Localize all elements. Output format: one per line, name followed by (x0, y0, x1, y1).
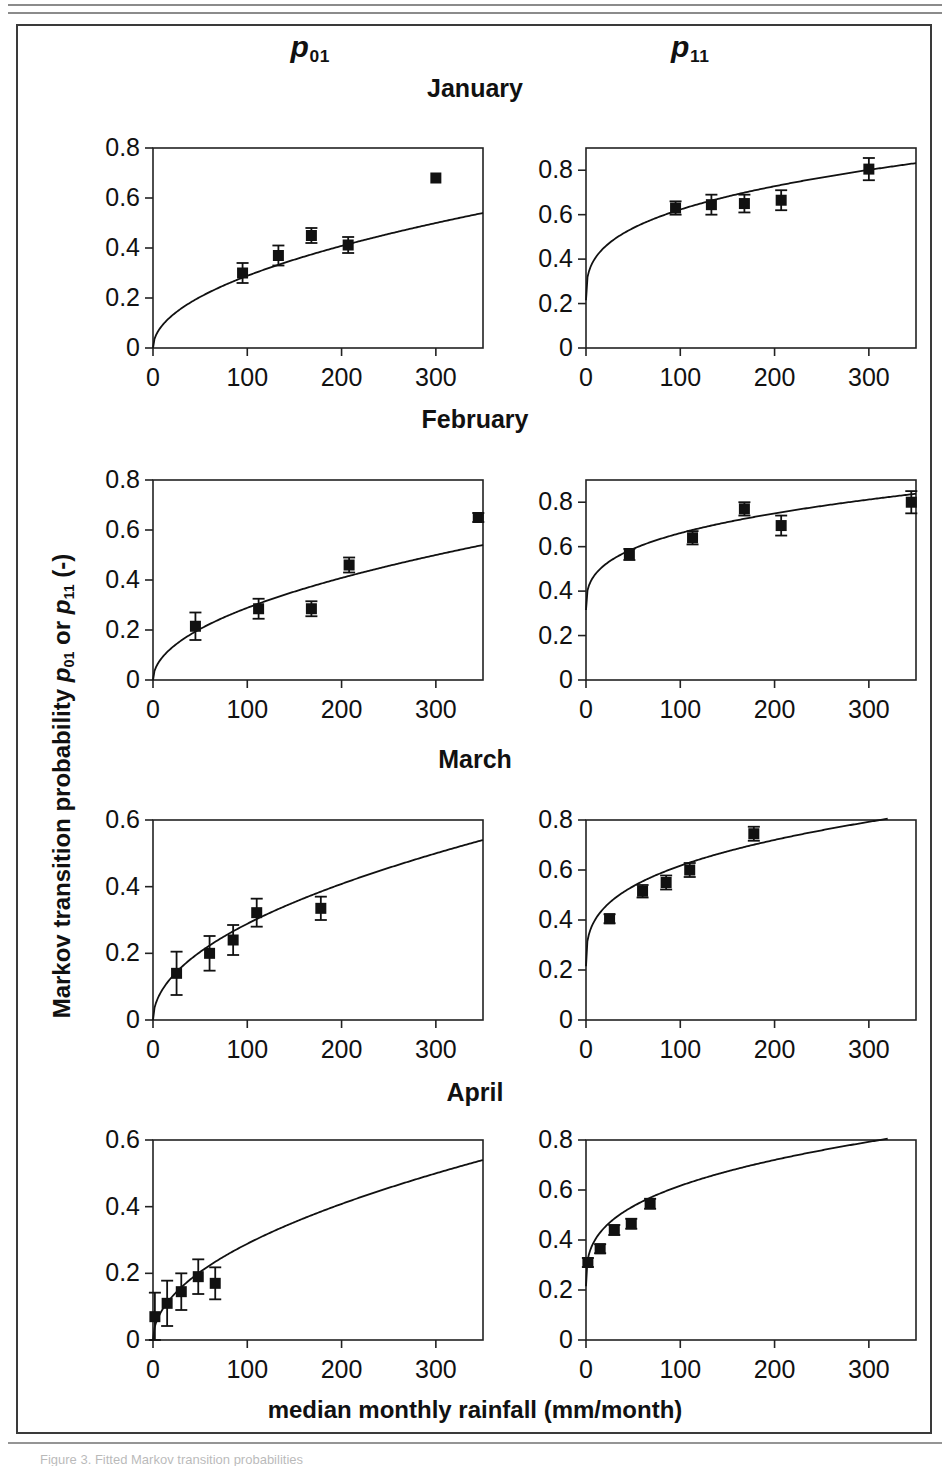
x-tick-label: 0 (579, 1355, 593, 1383)
data-point-marker (237, 268, 248, 279)
data-point-marker (776, 195, 787, 206)
plot-panel-january-p01: 00.20.40.60.80100200300 (95, 128, 497, 410)
x-tick-label: 200 (754, 695, 796, 723)
y-axis-title: Markov transition probability p01 or p11… (48, 406, 76, 1166)
column-header-p11: p11 (560, 30, 820, 64)
data-point-marker (661, 877, 672, 888)
x-tick-label: 100 (226, 363, 268, 391)
y-tick-label: 0.6 (105, 805, 140, 833)
y-tick-label: 0.6 (538, 855, 573, 883)
y-tick-label: 0.8 (538, 1125, 573, 1153)
data-point-marker (624, 549, 635, 560)
y-tick-label: 0.2 (105, 283, 140, 311)
x-tick-label: 0 (579, 1035, 593, 1063)
month-title-april: April (0, 1078, 950, 1107)
y-tick-label: 0.4 (105, 872, 140, 900)
plot-frame (153, 1140, 483, 1340)
data-point-marker (253, 603, 264, 614)
y-tick-label: 0 (559, 665, 573, 693)
fit-curve (153, 545, 483, 680)
data-point-marker (637, 886, 648, 897)
y-tick-label: 0.8 (538, 805, 573, 833)
y-tick-label: 0 (126, 1325, 140, 1353)
data-point-marker (595, 1243, 606, 1254)
x-tick-label: 300 (848, 1355, 890, 1383)
plot-panel-april-p11: 00.20.40.60.80100200300 (528, 1120, 930, 1402)
data-point-marker (906, 497, 917, 508)
x-tick-label: 0 (146, 363, 160, 391)
data-point-marker (645, 1198, 656, 1209)
x-tick-label: 100 (226, 1035, 268, 1063)
data-point-marker (739, 503, 750, 514)
y-axis-title-symbol-1: p (48, 668, 75, 683)
data-point-marker (306, 230, 317, 241)
scan-rule-top-upper (8, 4, 942, 6)
y-tick-label: 0.6 (538, 1175, 573, 1203)
month-title-january: January (0, 74, 950, 103)
y-axis-title-prefix: Markov transition probability (48, 682, 75, 1018)
fit-curve (153, 840, 483, 1020)
y-tick-label: 0.4 (538, 1225, 573, 1253)
y-tick-label: 0.8 (105, 465, 140, 493)
data-point-marker (863, 164, 874, 175)
data-point-marker (473, 512, 484, 523)
y-tick-label: 0.2 (538, 289, 573, 317)
x-tick-label: 200 (754, 363, 796, 391)
data-point-marker (228, 935, 239, 946)
y-tick-label: 0.4 (105, 233, 140, 261)
plot-frame (153, 480, 483, 680)
column-header-p01: p01 (180, 30, 440, 64)
x-tick-label: 300 (415, 1035, 457, 1063)
y-tick-label: 0 (126, 1005, 140, 1033)
x-tick-label: 200 (321, 1355, 363, 1383)
x-tick-label: 100 (659, 363, 701, 391)
data-point-marker (176, 1286, 187, 1297)
plot-panel-february-p01: 00.20.40.60.80100200300 (95, 460, 497, 742)
x-tick-label: 100 (226, 695, 268, 723)
data-point-marker (609, 1225, 620, 1236)
y-tick-label: 0.2 (105, 615, 140, 643)
x-tick-label: 100 (659, 695, 701, 723)
x-tick-label: 200 (321, 1035, 363, 1063)
plot-frame (586, 480, 916, 680)
y-tick-label: 0.4 (105, 565, 140, 593)
plot-panel-april-p01: 00.20.40.60100200300 (95, 1120, 497, 1402)
plot-frame (586, 148, 916, 348)
y-tick-label: 0.8 (105, 133, 140, 161)
data-point-marker (149, 1311, 160, 1322)
x-tick-label: 200 (321, 695, 363, 723)
y-tick-label: 0.4 (538, 905, 573, 933)
data-point-marker (430, 173, 441, 184)
y-tick-label: 0.2 (538, 1275, 573, 1303)
column-header-p01-subscript: 01 (310, 46, 330, 66)
x-tick-label: 300 (415, 695, 457, 723)
data-point-marker (706, 199, 717, 210)
scan-rule-caption (8, 1442, 942, 1444)
column-header-p11-subscript: 11 (690, 46, 709, 66)
plot-frame (586, 1140, 916, 1340)
x-tick-label: 200 (754, 1355, 796, 1383)
data-point-marker (748, 828, 759, 839)
data-point-marker (582, 1257, 593, 1268)
x-tick-label: 300 (848, 1035, 890, 1063)
y-tick-label: 0 (559, 333, 573, 361)
data-point-marker (739, 198, 750, 209)
figure-caption-partial: Figure 3. Fitted Markov transition proba… (40, 1452, 460, 1466)
data-point-marker (162, 1298, 173, 1309)
y-tick-label: 0.4 (538, 576, 573, 604)
y-tick-label: 0.4 (105, 1192, 140, 1220)
figure-page: p01 p11 January February March April Mar… (0, 0, 950, 1471)
data-point-marker (344, 560, 355, 571)
data-point-marker (776, 520, 787, 531)
data-point-marker (687, 532, 698, 543)
y-tick-label: 0.2 (105, 1258, 140, 1286)
data-point-marker (626, 1218, 637, 1229)
fit-curve (586, 163, 916, 300)
y-tick-label: 0.6 (538, 532, 573, 560)
x-tick-label: 200 (321, 363, 363, 391)
scan-rule-top-lower (8, 12, 942, 14)
data-point-marker (604, 913, 615, 924)
data-point-marker (193, 1271, 204, 1282)
fit-curve (586, 494, 916, 610)
y-axis-title-symbol-2: p (48, 600, 75, 615)
